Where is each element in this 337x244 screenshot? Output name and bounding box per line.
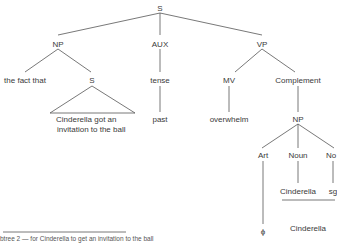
embedded-sentence-line2: invitation to the ball xyxy=(57,125,126,134)
node-vp: VP xyxy=(257,40,268,49)
node-np: NP xyxy=(52,40,63,49)
leaf-null-article: ϕ xyxy=(261,227,265,236)
node-aux: AUX xyxy=(152,40,168,49)
leaf-sg: sg xyxy=(329,187,337,196)
node-mv: MV xyxy=(223,76,235,85)
node-complement-np: NP xyxy=(292,115,303,124)
leaf-past: past xyxy=(152,115,167,124)
node-noun: Noun xyxy=(288,151,307,160)
node-tense: tense xyxy=(150,76,170,85)
node-art: Art xyxy=(258,151,268,160)
leaf-the-fact-that: the fact that xyxy=(4,76,46,85)
leaf-cinderella: Cinderella xyxy=(280,187,316,196)
caption: btree 2 — for Cinderella to get an invit… xyxy=(0,235,154,242)
leaf-overwhelm: overwhelm xyxy=(210,115,249,124)
tree-branches xyxy=(0,0,337,244)
node-number: No xyxy=(326,151,336,160)
node-s-root: S xyxy=(157,4,162,13)
surface-cinderella: Cinderella xyxy=(290,224,326,233)
embedded-sentence-line1: Cinderella got an xyxy=(56,115,116,124)
node-embedded-s: S xyxy=(89,76,94,85)
node-complement: Complement xyxy=(275,76,320,85)
